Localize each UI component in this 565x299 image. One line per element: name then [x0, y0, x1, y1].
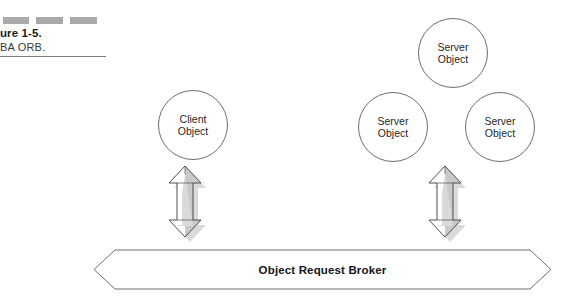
- object-request-broker-banner: Object Request Broker: [93, 249, 552, 290]
- node-label-line2: Object: [438, 53, 468, 65]
- node-client-object: Client Object: [158, 90, 228, 160]
- figure-caption-title: ure 1-5.: [0, 27, 42, 39]
- node-label-line1: Server: [438, 41, 469, 53]
- node-server-object-right: Server Object: [465, 92, 535, 162]
- node-label-line1: Server: [378, 115, 409, 127]
- decorative-bar: [3, 17, 29, 24]
- figure-canvas: ure 1-5. BA ORB. Client Object Server Ob…: [0, 0, 565, 299]
- bidirectional-arrow-server: [426, 166, 480, 254]
- node-label-line2: Object: [378, 127, 408, 139]
- figure-caption-subtitle: BA ORB.: [0, 41, 45, 53]
- caption-divider: [0, 56, 106, 57]
- node-server-object-middle: Server Object: [358, 92, 428, 162]
- node-label-line2: Object: [178, 125, 208, 137]
- bidirectional-arrow-client: [166, 166, 220, 254]
- node-label-line2: Object: [485, 127, 515, 139]
- decorative-bar: [36, 17, 63, 24]
- node-server-object-top: Server Object: [418, 18, 488, 88]
- decorative-bar: [70, 17, 97, 24]
- node-label-line1: Client: [180, 113, 207, 125]
- figure-caption-block: ure 1-5. BA ORB.: [0, 0, 112, 58]
- node-label-line1: Server: [485, 115, 516, 127]
